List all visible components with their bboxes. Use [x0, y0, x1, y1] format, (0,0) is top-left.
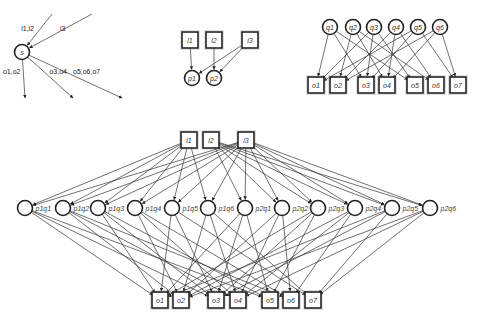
panel-a-out-edge — [29, 55, 122, 98]
panel-d-product-p1q1-label: p1q1 — [35, 205, 52, 213]
panel-d-input-edge — [174, 148, 187, 200]
panel-d-output-o5-label: o5 — [266, 297, 274, 304]
panel-d-input-edge — [218, 144, 311, 203]
state-s-label: s — [20, 49, 24, 56]
panel-d-output-o1-label: o1 — [156, 297, 164, 304]
panel-c-edge — [346, 31, 434, 81]
panel-d-output-edge — [138, 215, 177, 292]
panel-c-output-o3-label: o3 — [362, 82, 370, 89]
panel-d-product-p1q5 — [165, 201, 180, 216]
panel-d-output-o7-label: o7 — [309, 297, 318, 304]
panel-d-input-edge — [33, 142, 238, 205]
panel-b-input-i2-label: i2 — [211, 37, 217, 44]
panel-d-product-p1q3 — [91, 201, 106, 216]
panel-d-output-edge — [296, 214, 351, 292]
panel-d-output-o2-label: o2 — [177, 297, 185, 304]
panel-d-product-p2q2 — [275, 201, 290, 216]
panel-b-input-i1-label: i1 — [187, 37, 193, 44]
panel-d-product-p2q3-label: p2q3 — [328, 205, 345, 213]
panel-c-output-o1-label: o1 — [312, 82, 320, 89]
product-net-diagram: i1,i2i3o1,o2o3,o4o5,o6,o7si1i2i3p1p2q1q2… — [0, 0, 481, 325]
panel-c-edge — [318, 34, 328, 76]
panel-c-state-q2-label: q2 — [349, 24, 357, 32]
panel-d-output-edge — [102, 214, 155, 292]
panel-c-edge — [372, 33, 413, 79]
panel-b-process-p1-label: p1 — [187, 75, 196, 83]
panel-d-output-edge — [32, 211, 262, 297]
panel-d-output-edge — [161, 215, 171, 291]
panel-d-input-edge — [218, 143, 384, 205]
panel-d-product-p1q4-label: p1q4 — [145, 205, 162, 213]
panel-d-product-p2q5 — [385, 201, 400, 216]
panel-d-input-edge — [254, 143, 423, 205]
panel-d-product-p2q2-label: p2q2 — [292, 205, 309, 213]
panel-d-product-p1q6 — [201, 201, 216, 216]
panel-d-output-edge — [224, 211, 385, 295]
panel-d-input-edge — [105, 145, 183, 203]
panel-d-output-edge — [223, 213, 313, 294]
panel-c-output-o2-label: o2 — [334, 82, 342, 89]
panel-a-in-label: i3 — [60, 25, 66, 32]
panel-d-output-edge — [319, 214, 387, 293]
panel-d-input-i3-label: i3 — [243, 137, 249, 144]
panel-c-state-q6-label: q6 — [436, 24, 444, 32]
panel-d-output-edge — [70, 211, 283, 297]
panel-c-edge — [334, 33, 361, 77]
panel-a-out-label: o1,o2 — [3, 68, 21, 75]
panel-d-output-edge — [283, 215, 290, 291]
panel-d-input-edge — [253, 143, 384, 204]
panel-d-input-i2-label: i2 — [208, 137, 214, 144]
panel-d-product-p2q3 — [311, 201, 326, 216]
panel-d-output-o6-label: o6 — [287, 297, 295, 304]
panel-d-output-edge — [32, 211, 208, 296]
panel-c-state-q3-label: q3 — [370, 24, 378, 32]
panel-c-edge — [422, 33, 453, 77]
panel-d-output-edge — [189, 211, 423, 297]
panel-a-in-label: i1,i2 — [21, 25, 34, 32]
panel-d-product-p2q6 — [423, 201, 438, 216]
panel-d-output-edge — [210, 215, 235, 291]
edges-layer — [22, 14, 455, 297]
panel-d-product-p1q1 — [18, 201, 33, 216]
panel-c-output-o6-label: o6 — [432, 82, 440, 89]
panel-b-input-i3-label: i3 — [247, 37, 253, 44]
panel-d-input-edge — [33, 143, 182, 205]
panel-d-product-p1q6-label: p1q6 — [218, 205, 235, 213]
panel-d-product-p1q3-label: p1q3 — [108, 205, 125, 213]
panel-d-product-p1q4 — [128, 201, 143, 216]
panel-d-output-o4-label: o4 — [234, 297, 242, 304]
panel-d-product-p2q4-label: p2q4 — [365, 205, 382, 213]
panel-d-output-edge — [105, 212, 262, 296]
panel-c-state-q4-label: q4 — [392, 24, 400, 32]
panel-d-output-edge — [31, 212, 152, 295]
panel-d-product-p2q6-label: p2q6 — [440, 205, 457, 213]
panel-c-output-o7-label: o7 — [454, 82, 463, 89]
panel-d-output-edge — [141, 212, 283, 296]
panel-b-edge — [190, 48, 191, 70]
panel-d-product-p1q2 — [56, 201, 71, 216]
panel-c-edge — [442, 34, 455, 76]
panel-a-out-label: o5,o6,o7 — [73, 68, 100, 75]
panel-d-output-edge — [242, 215, 279, 292]
panel-d-output-edge — [141, 213, 232, 294]
panel-c-state-q1-label: q1 — [326, 24, 334, 32]
panel-d-output-edge — [70, 211, 230, 295]
panel-c-edge — [336, 31, 407, 80]
panel-d-output-edge — [274, 215, 314, 292]
panel-d-product-p2q1-label: p2q1 — [255, 205, 272, 213]
panel-c-output-o4-label: o4 — [383, 82, 391, 89]
panel-d-output-o3-label: o3 — [212, 297, 220, 304]
panel-d-product-p2q5-label: p2q5 — [402, 205, 419, 213]
panel-c-edge — [393, 33, 435, 79]
panel-d-input-i1-label: i1 — [186, 137, 192, 144]
panel-a-out-label: o3,o4 — [49, 68, 67, 75]
panel-d-product-p2q1 — [238, 201, 253, 216]
panel-d-input-edge — [218, 143, 347, 204]
panel-c-output-o5-label: o5 — [411, 82, 419, 89]
panel-d-input-edge — [217, 146, 276, 203]
panel-d-output-edge — [245, 213, 349, 295]
panel-a-out-edge — [22, 59, 25, 98]
panel-d-product-p1q5-label: p1q5 — [182, 205, 199, 213]
panel-d-product-p1q2-label: p1q2 — [73, 205, 90, 213]
panel-c-state-q5-label: q5 — [414, 24, 422, 32]
